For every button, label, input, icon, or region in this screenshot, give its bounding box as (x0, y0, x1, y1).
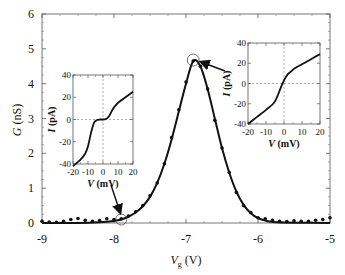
data-point (184, 80, 188, 84)
data-point (155, 181, 159, 185)
data-point (170, 136, 174, 140)
data-point (278, 219, 282, 223)
y-tick-label: 5 (28, 42, 34, 56)
inset-x-axis-label: V (mV) (87, 178, 118, 190)
data-point (76, 217, 80, 221)
y-tick-label: 4 (28, 77, 34, 91)
data-point (235, 191, 239, 195)
data-point (292, 219, 296, 223)
data-point (98, 219, 102, 223)
data-point (242, 204, 246, 208)
data-point (263, 217, 267, 221)
y-tick-label: 0 (28, 216, 34, 230)
inset-x-tick-label: -10 (260, 127, 272, 137)
data-point (40, 219, 44, 223)
data-point (141, 204, 145, 208)
inset-x-tick-label: 0 (101, 167, 106, 177)
data-point (119, 217, 123, 221)
data-point (91, 219, 95, 223)
x-axis-label: Vg (V) (170, 253, 201, 269)
arrow-icon (201, 62, 225, 71)
inset-y-tick-label: -20 (234, 99, 246, 109)
data-point (220, 146, 224, 150)
data-point (62, 219, 66, 223)
inset-y-axis-label: I (pA) (221, 71, 233, 98)
data-point (285, 220, 289, 224)
inset-x-tick-label: 20 (316, 127, 326, 137)
inset-x-tick-label: 20 (129, 167, 139, 177)
conductance-figure: -9-8-7-6-50123456Vg (V)G (nS) -20-100102… (0, 0, 345, 275)
inset-y-axis-label: I (pA) (46, 107, 58, 134)
data-point (206, 87, 210, 91)
data-point (134, 210, 138, 214)
inset-y-tick-label: 20 (237, 58, 247, 68)
data-point (199, 64, 203, 68)
inset-y-tick-label: 0 (67, 115, 72, 125)
data-point (177, 108, 181, 112)
data-point (105, 217, 109, 221)
x-tick-label: -5 (325, 232, 335, 246)
inset-x-tick-label: 10 (114, 167, 124, 177)
y-axis-label: G (nS) (10, 104, 24, 136)
data-point (213, 118, 217, 122)
data-point (328, 216, 332, 220)
y-tick-label: 2 (28, 146, 34, 160)
arrow-icon (111, 185, 120, 213)
data-point (112, 218, 116, 222)
inset-x-tick-label: 0 (282, 127, 287, 137)
left-inset-iv-plot: -20-100102040200-20-40V (mV)I (pA) (46, 70, 138, 190)
inset-x-tick-label: -10 (82, 167, 94, 177)
data-point (127, 214, 131, 218)
data-point (148, 194, 152, 198)
x-tick-label: -9 (37, 232, 47, 246)
data-point (321, 218, 325, 222)
inset-y-tick-label: -40 (59, 159, 71, 169)
data-point (47, 220, 51, 224)
inset-y-tick-label: -40 (234, 119, 246, 129)
data-point (163, 162, 167, 166)
inset-y-tick-label: 40 (62, 70, 72, 80)
inset-y-tick-label: -20 (59, 137, 71, 147)
x-tick-label: -8 (109, 232, 119, 246)
data-point (227, 171, 231, 175)
y-tick-label: 3 (28, 112, 34, 126)
y-tick-label: 1 (28, 181, 34, 195)
inset-x-axis-label: V (mV) (268, 138, 299, 150)
data-point (191, 59, 195, 63)
x-tick-label: -6 (253, 232, 263, 246)
inset-y-tick-label: 0 (242, 79, 247, 89)
inset-y-tick-label: 20 (62, 92, 72, 102)
data-point (83, 218, 87, 222)
y-tick-label: 6 (28, 7, 34, 21)
data-point (256, 216, 260, 220)
data-point (271, 218, 275, 222)
right-inset-iv-plot: -20-100102040200-20-40V (mV)I (pA) (221, 38, 325, 150)
inset-y-tick-label: 40 (237, 38, 247, 48)
data-point (299, 219, 303, 223)
data-point (314, 218, 318, 222)
data-point (249, 211, 253, 215)
data-point (307, 219, 311, 223)
data-point (69, 218, 73, 222)
data-point (55, 221, 59, 225)
inset-x-tick-label: 10 (298, 127, 308, 137)
x-tick-label: -7 (181, 232, 191, 246)
